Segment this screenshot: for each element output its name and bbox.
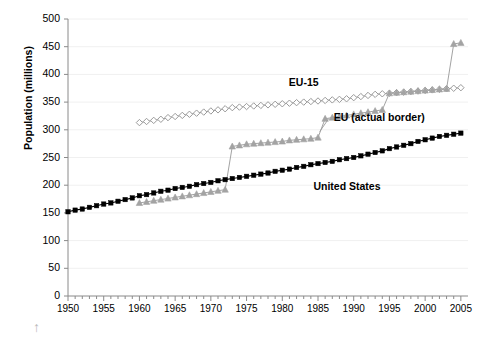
x-tick-label: 1995 xyxy=(371,303,407,314)
series-label-eu-actual-border: EU (actual border) xyxy=(334,111,425,123)
x-tick-label: 2005 xyxy=(443,303,479,314)
x-tick-label: 1975 xyxy=(229,303,265,314)
y-tick-label: 150 xyxy=(26,206,60,218)
x-tick-label: 1990 xyxy=(336,303,372,314)
series-united-states xyxy=(66,131,463,214)
series-label-eu15: EU-15 xyxy=(289,76,319,88)
x-tick-label: 1970 xyxy=(193,303,229,314)
data-series-layer xyxy=(66,39,464,214)
y-tick-label: 450 xyxy=(26,40,60,52)
x-tick-label: 2000 xyxy=(407,303,443,314)
x-tick-label: 1965 xyxy=(157,303,193,314)
x-tick-label: 1950 xyxy=(50,303,86,314)
x-tick-marks xyxy=(68,296,461,301)
scroll-up-arrow-icon[interactable]: ↑ xyxy=(33,320,40,334)
y-tick-label: 300 xyxy=(26,123,60,135)
x-tick-label: 1985 xyxy=(300,303,336,314)
population-line-chart xyxy=(0,0,482,344)
y-tick-label: 0 xyxy=(26,289,60,301)
y-tick-marks xyxy=(64,19,68,296)
chart-figure: Population (millions) 050100150200250300… xyxy=(0,0,482,344)
series-label-united-states: United States xyxy=(313,180,380,192)
y-tick-label: 350 xyxy=(26,95,60,107)
y-tick-label: 100 xyxy=(26,234,60,246)
y-tick-label: 400 xyxy=(26,67,60,79)
x-tick-label: 1955 xyxy=(86,303,122,314)
y-tick-label: 250 xyxy=(26,151,60,163)
y-tick-label: 500 xyxy=(26,12,60,24)
x-tick-label: 1960 xyxy=(121,303,157,314)
y-tick-label: 200 xyxy=(26,178,60,190)
y-tick-label: 50 xyxy=(26,261,60,273)
x-tick-label: 1980 xyxy=(264,303,300,314)
